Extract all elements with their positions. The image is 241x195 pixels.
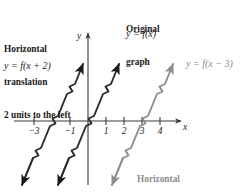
annotation-top: Original graph — [126, 2, 160, 90]
annotation-left-line3: 2 units to the left — [4, 110, 71, 121]
x-tick-label-neg3: −3 — [24, 126, 44, 136]
annotation-right-equation: y = f(x − 3) — [186, 58, 233, 70]
curve-f-x-plus-2-tail-arrow — [22, 158, 33, 185]
x-axis-label: x — [183, 122, 187, 132]
y-axis-label: y — [77, 31, 81, 41]
annotation-left-equation: y = f(x + 2) — [4, 60, 51, 72]
figure-canvas: Horizontal translation 2 units to the le… — [0, 0, 241, 195]
x-tick-label-neg1: −1 — [60, 126, 80, 136]
x-tick-label-4: 4 — [153, 126, 167, 136]
annotation-bottom-line1: Horizontal — [137, 174, 210, 185]
x-tick-label-1: 1 — [99, 126, 113, 136]
annotation-left-line1: Horizontal — [4, 44, 71, 55]
curve-f-x-tail-arrow — [58, 158, 69, 185]
x-tick-label-3: 3 — [135, 126, 149, 136]
x-tick-label-2: 2 — [117, 126, 131, 136]
annotation-top-line2: graph — [126, 57, 160, 68]
annotation-left-line2: translation — [4, 77, 71, 88]
curve-f-x-minus-3-tail-arrow — [112, 158, 123, 185]
annotation-bottom: Horizontal translation 3 units to the ri… — [137, 152, 210, 195]
annotation-left: Horizontal translation 2 units to the le… — [4, 22, 71, 143]
annotation-top-equation: y = f(x) — [126, 28, 156, 40]
